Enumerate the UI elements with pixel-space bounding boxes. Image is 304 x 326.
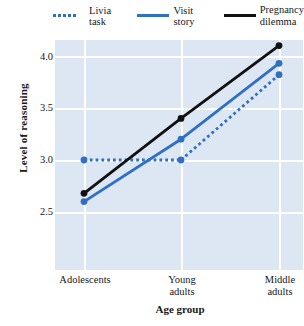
legend-item-pregnancy-dilemma: Pregnancy dilemma (224, 4, 304, 27)
legend-swatch-solid-black-icon (224, 10, 256, 21)
data-point (81, 157, 88, 164)
series-segment (181, 63, 279, 139)
y-tick-label: 3.5 (7, 102, 53, 113)
x-tick-label-adolescents: Adolescents (37, 274, 133, 286)
series-segment (84, 139, 181, 201)
series-canvas (55, 40, 303, 270)
legend-item-livia-task: Livia task (52, 4, 128, 27)
line-chart-figure: Livia task Visit story Pregnancy dilemma… (0, 0, 304, 326)
data-point (178, 115, 185, 122)
legend-swatch-solid-blue-icon (137, 10, 169, 21)
x-tick-label-young-adults: Young adults (134, 274, 230, 298)
data-point (276, 42, 283, 49)
data-point (81, 198, 88, 205)
data-point (178, 157, 185, 164)
legend-swatch-dotted-blue-icon (52, 10, 85, 21)
series-segment (181, 75, 279, 160)
y-tick-label: 4.0 (7, 51, 53, 62)
chart-legend: Livia task Visit story Pregnancy dilemma (52, 4, 304, 36)
x-tick-label-middle-adults: Middle adults (232, 274, 304, 298)
x-axis-title: Age group (55, 303, 304, 315)
data-point (276, 71, 283, 78)
series-visit-story (81, 60, 283, 205)
plot-area (55, 40, 303, 270)
y-tick-label: 3.0 (7, 154, 53, 165)
series-pregnancy-dilemma (81, 42, 283, 196)
series-segment (84, 118, 181, 193)
series-segment (181, 46, 279, 119)
legend-label-pregnancy-dilemma: Pregnancy dilemma (260, 3, 304, 27)
legend-label-livia-task: Livia task (89, 4, 128, 27)
y-tick-label: 2.5 (7, 206, 53, 217)
data-point (81, 190, 88, 197)
legend-item-visit-story: Visit story (137, 4, 214, 27)
data-point (178, 136, 185, 143)
legend-label-visit-story: Visit story (173, 4, 214, 27)
data-point (276, 60, 283, 67)
